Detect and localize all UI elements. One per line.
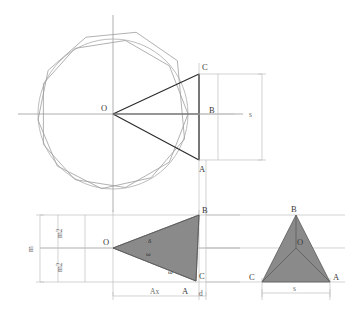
front-view-dimension-d-label: d: [199, 289, 203, 298]
geometric-construction-figure: s O C B A m m2: [0, 0, 357, 323]
side-view-triangle: [262, 215, 330, 282]
diagram-root: s O C B A m m2: [0, 0, 357, 323]
front-view-label-a: A: [182, 286, 189, 296]
side-view-dimension-s: s: [262, 284, 330, 297]
front-view-dimension-m2-upper: m2: [55, 228, 64, 238]
front-view-dimension-m-label: m: [26, 246, 35, 252]
front-view-dimension-m2-lower: m2: [55, 262, 64, 272]
top-view-dimension-s: s: [249, 74, 266, 160]
side-view-label-c: C: [249, 272, 255, 282]
front-view-dimension-m2-upper-label: m2: [55, 228, 64, 238]
front-view-dimension-bottom: Ax d: [113, 287, 206, 300]
side-view-label-o: O: [297, 237, 303, 247]
front-view-label-b: B: [202, 205, 208, 215]
front-view-label-o: O: [103, 237, 109, 247]
front-view-triangle: [113, 215, 199, 281]
front-view-angle-omega-lower: ω: [168, 268, 173, 276]
top-view-polygon-b: [38, 32, 185, 188]
top-view-label-c: C: [202, 62, 208, 72]
front-view-label-c: C: [199, 271, 205, 281]
side-view-label-a: A: [333, 272, 340, 282]
side-view-dimension-s-label: s: [293, 284, 296, 293]
top-view-label-b: B: [209, 105, 215, 115]
front-view-dimension-ax-label: Ax: [150, 287, 159, 296]
top-view-dimension-s-label: s: [249, 110, 252, 119]
top-view-label-a: A: [199, 164, 206, 174]
front-view-angle-omega-upper: ω: [146, 250, 151, 258]
top-view-label-o: O: [101, 103, 107, 113]
side-view-label-b: B: [291, 204, 297, 214]
front-view-dimension-m: m: [26, 215, 44, 282]
top-view-construction-lines: [113, 63, 262, 215]
top-view-wedge: [113, 74, 199, 160]
front-view-dimension-m2-lower-label: m2: [55, 262, 64, 272]
